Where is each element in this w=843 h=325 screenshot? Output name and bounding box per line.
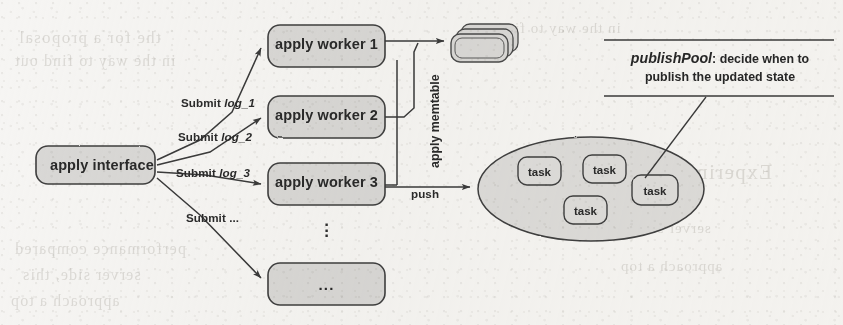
node-task[interactable] (518, 157, 561, 185)
node-task[interactable] (583, 155, 626, 183)
node-task[interactable] (632, 175, 678, 205)
edge-submit-log-1 (157, 48, 261, 160)
diagram-canvas: the for a proposal in the way to find ou… (0, 0, 843, 325)
edge-memtable-bus (385, 43, 418, 117)
node-apply-interface[interactable] (36, 146, 155, 184)
edge-submit-log-3 (157, 172, 261, 184)
edge-submit-log-2 (157, 118, 261, 165)
node-apply-worker-1[interactable] (268, 25, 385, 67)
edge-submit-more (157, 178, 261, 278)
node-task[interactable] (564, 196, 607, 224)
node-apply-worker-3[interactable] (268, 163, 385, 205)
node-apply-worker-more[interactable] (268, 263, 385, 305)
diagram-vector-layer (0, 0, 843, 325)
node-apply-worker-2[interactable] (268, 96, 385, 138)
